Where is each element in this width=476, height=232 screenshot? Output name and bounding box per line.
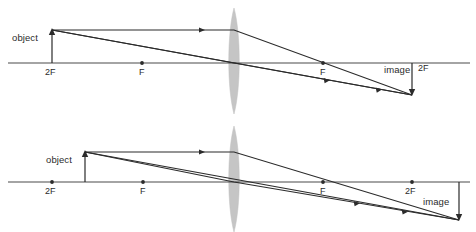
two-focal-label-right: 2F bbox=[405, 186, 416, 196]
image-label: image bbox=[384, 64, 410, 75]
diagram-object-at-2F: object image 2F F F 2F bbox=[0, 0, 476, 116]
converging-lens-icon bbox=[229, 8, 240, 114]
object-label: object bbox=[46, 154, 72, 165]
object-arrowhead-icon bbox=[49, 28, 55, 35]
focal-label-left: F bbox=[140, 186, 146, 196]
image-label: image bbox=[423, 196, 449, 207]
focal-point-marker-left bbox=[141, 180, 145, 184]
object-label: object bbox=[12, 32, 38, 43]
focal-label-right: F bbox=[320, 186, 326, 196]
two-focal-point-marker-right bbox=[410, 180, 414, 184]
ray-diagram-figure: object image 2F F F 2F bbox=[0, 0, 476, 232]
ray-direction-arrowhead-icon bbox=[199, 149, 205, 154]
ray-direction-arrowhead-icon bbox=[199, 27, 205, 32]
two-focal-label-right: 2F bbox=[418, 63, 429, 73]
focal-point-marker-right bbox=[321, 180, 325, 184]
focal-label-right: F bbox=[320, 67, 326, 77]
focal-label-left: F bbox=[139, 67, 145, 77]
ray-direction-arrowhead-icon bbox=[324, 78, 330, 83]
two-focal-point-marker-left bbox=[50, 180, 54, 184]
two-focal-label-left: 2F bbox=[45, 186, 56, 196]
focal-point-marker-right bbox=[321, 61, 325, 65]
two-focal-label-left: 2F bbox=[45, 67, 56, 77]
focal-point-marker-left bbox=[140, 61, 144, 65]
diagram-object-between-2F-and-F: object image 2F F F 2F bbox=[0, 116, 476, 232]
object-arrowhead-icon bbox=[82, 150, 88, 157]
